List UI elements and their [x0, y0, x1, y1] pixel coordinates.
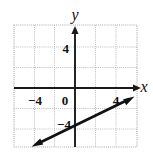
tick-label-y-positive-four: 4 [63, 41, 70, 56]
y-axis-label: y [69, 6, 79, 24]
coordinate-plane-svg: y x 4 −4 −4 0 4 [0, 0, 153, 160]
graph-figure: y x 4 −4 −4 0 4 [0, 0, 153, 160]
x-axis-label: x [139, 78, 147, 95]
tick-label-origin: 0 [62, 93, 69, 108]
tick-label-y-negative-four: −4 [57, 117, 71, 132]
tick-label-x-positive-four: 4 [113, 93, 120, 108]
tick-label-x-negative-four: −4 [28, 93, 42, 108]
